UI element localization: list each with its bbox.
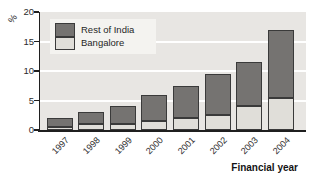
legend-label-bangalore: Bangalore	[81, 38, 124, 48]
bar-segment-rest-of-india-1999	[110, 106, 136, 124]
y-tick-label-5: 5	[8, 96, 34, 106]
x-tick-label-2004: 2004	[271, 135, 292, 156]
x-tick-label-2003: 2003	[239, 135, 260, 156]
bar-segment-bangalore-2000	[141, 121, 167, 130]
legend-swatch-rest-of-india-icon	[55, 23, 75, 37]
x-tick-label-1999: 1999	[113, 135, 134, 156]
x-tick-label-2001: 2001	[176, 135, 197, 156]
bar-segment-rest-of-india-2001	[173, 86, 199, 118]
bar-segment-rest-of-india-1998	[78, 112, 104, 124]
x-tick-label-2000: 2000	[144, 135, 165, 156]
y-tick-label-10: 10	[8, 66, 34, 76]
y-axis-line	[39, 12, 41, 132]
y-tick-label-15: 15	[8, 37, 34, 47]
bar-segment-rest-of-india-2000	[141, 95, 167, 122]
bar-segment-rest-of-india-2003	[236, 62, 262, 106]
legend-item-rest-of-india: Rest of India	[55, 23, 156, 37]
x-axis-line	[38, 130, 306, 132]
gridline-10	[40, 70, 306, 72]
y-tick-label-0: 0	[8, 125, 34, 135]
legend-swatch-bangalore-icon	[55, 37, 75, 51]
x-tick-label-2002: 2002	[207, 135, 228, 156]
bar-segment-rest-of-india-2004	[268, 30, 294, 98]
legend-label-rest-of-india: Rest of India	[81, 25, 134, 35]
legend: Rest of India Bangalore	[50, 19, 156, 54]
x-axis-title: Financial year	[231, 162, 298, 173]
bar-segment-rest-of-india-1997	[47, 118, 73, 127]
bar-segment-bangalore-2003	[236, 106, 262, 130]
x-tick-label-1997: 1997	[49, 135, 70, 156]
chart-container: 0510152019971998199920002001200220032004…	[0, 0, 312, 186]
bar-segment-bangalore-2004	[268, 98, 294, 130]
bar-segment-bangalore-2002	[205, 115, 231, 130]
bar-segment-bangalore-2001	[173, 118, 199, 130]
x-tick-label-1998: 1998	[81, 135, 102, 156]
legend-item-bangalore: Bangalore	[55, 37, 156, 51]
bar-segment-rest-of-india-2002	[205, 74, 231, 115]
